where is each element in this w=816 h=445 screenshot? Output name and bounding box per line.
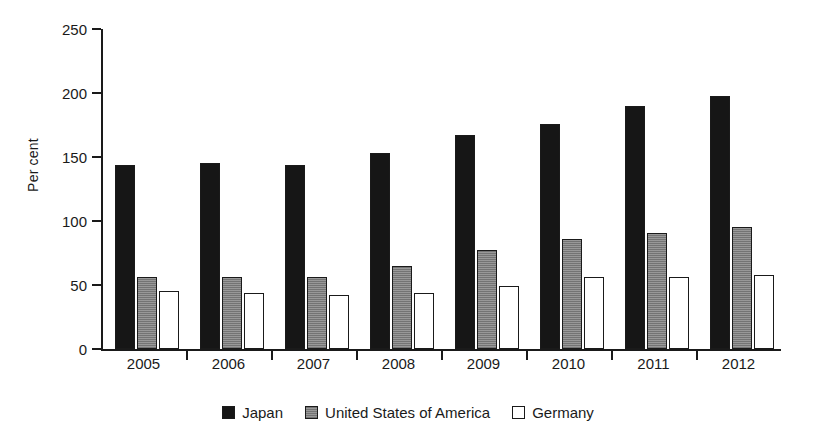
bar-germany bbox=[414, 293, 434, 349]
bar-germany bbox=[329, 295, 349, 349]
bar-group: 2006 bbox=[186, 29, 271, 349]
bar-group-bars bbox=[710, 29, 774, 349]
legend-item-label: United States of America bbox=[325, 404, 490, 421]
y-axis-tick bbox=[92, 284, 101, 286]
bar-japan bbox=[115, 165, 135, 349]
y-axis-tick-label: 0 bbox=[45, 342, 87, 357]
bar-group-bars bbox=[455, 29, 519, 349]
bar-usa bbox=[732, 227, 752, 349]
bar-germany bbox=[159, 291, 179, 349]
bar-group-bars bbox=[540, 29, 604, 349]
gray-square-swatch bbox=[305, 406, 318, 419]
bar-group-bars bbox=[115, 29, 179, 349]
x-axis-tick-label: 2007 bbox=[271, 355, 356, 372]
bar-germany bbox=[669, 277, 689, 349]
bar-usa bbox=[137, 277, 157, 349]
bar-japan bbox=[540, 124, 560, 349]
bar-japan bbox=[370, 153, 390, 349]
bar-group: 2007 bbox=[271, 29, 356, 349]
bar-group: 2005 bbox=[101, 29, 186, 349]
y-axis-tick-label: 100 bbox=[45, 214, 87, 229]
y-axis-tick-label: 250 bbox=[45, 22, 87, 37]
legend-item-japan[interactable]: Japan bbox=[222, 404, 283, 421]
bar-usa bbox=[647, 233, 667, 349]
legend-item-usa[interactable]: United States of America bbox=[305, 404, 490, 421]
bar-usa bbox=[477, 250, 497, 349]
legend-item-germany[interactable]: Germany bbox=[512, 404, 594, 421]
bar-germany bbox=[754, 275, 774, 349]
legend-item-label: Germany bbox=[532, 404, 594, 421]
y-axis-tick-label: 50 bbox=[45, 278, 87, 293]
bar-japan bbox=[285, 165, 305, 349]
x-axis-tick-label: 2012 bbox=[696, 355, 781, 372]
bar-group-bars bbox=[285, 29, 349, 349]
bar-group-bars bbox=[200, 29, 264, 349]
bar-group: 2009 bbox=[441, 29, 526, 349]
bar-group: 2011 bbox=[611, 29, 696, 349]
bar-usa bbox=[562, 239, 582, 349]
bar-germany bbox=[499, 286, 519, 349]
bar-group: 2010 bbox=[526, 29, 611, 349]
y-axis-tick-label: 200 bbox=[45, 86, 87, 101]
white-square-swatch bbox=[512, 406, 525, 419]
bar-japan bbox=[200, 163, 220, 349]
bar-group: 2012 bbox=[696, 29, 781, 349]
bar-usa bbox=[392, 266, 412, 349]
bar-japan bbox=[710, 96, 730, 349]
x-axis-tick-label: 2005 bbox=[101, 355, 186, 372]
bar-chart: Per cent 050100150200250 200520062007200… bbox=[0, 0, 816, 445]
y-axis-tick bbox=[92, 220, 101, 222]
legend-item-label: Japan bbox=[242, 404, 283, 421]
y-axis-label: Per cent bbox=[18, 110, 48, 220]
black-square-swatch bbox=[222, 406, 235, 419]
x-axis-tick-label: 2010 bbox=[526, 355, 611, 372]
bar-group: 2008 bbox=[356, 29, 441, 349]
y-axis-tick bbox=[92, 28, 101, 30]
bar-japan bbox=[455, 135, 475, 349]
x-axis-tick-label: 2011 bbox=[611, 355, 696, 372]
bar-japan bbox=[625, 106, 645, 349]
bar-usa bbox=[307, 277, 327, 349]
bar-germany bbox=[584, 277, 604, 349]
y-axis-tick-label: 150 bbox=[45, 150, 87, 165]
y-axis-tick bbox=[92, 156, 101, 158]
y-axis-tick bbox=[92, 92, 101, 94]
x-axis-tick-label: 2006 bbox=[186, 355, 271, 372]
bar-germany bbox=[244, 293, 264, 349]
x-axis-tick-label: 2009 bbox=[441, 355, 526, 372]
x-axis-tick-label: 2008 bbox=[356, 355, 441, 372]
bar-group-bars bbox=[625, 29, 689, 349]
chart-legend: JapanUnited States of AmericaGermany bbox=[0, 404, 816, 421]
bar-group-bars bbox=[370, 29, 434, 349]
plot-area: 050100150200250 200520062007200820092010… bbox=[101, 29, 781, 349]
bar-usa bbox=[222, 277, 242, 349]
y-axis-tick bbox=[92, 348, 101, 350]
